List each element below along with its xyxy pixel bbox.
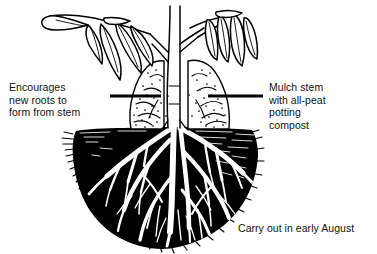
timing-label: Carry out in early August <box>238 222 354 235</box>
encourages-new-roots-label: Encourages new roots to form from stem <box>9 81 80 119</box>
illustration-figure: Encourages new roots to form from stem M… <box>0 0 377 254</box>
right-leaf-cluster <box>190 11 257 66</box>
mulch-stem-label: Mulch stem with all-peat potting compost <box>269 81 326 131</box>
soil-mass <box>62 124 264 253</box>
left-leaf-cluster <box>42 15 153 80</box>
